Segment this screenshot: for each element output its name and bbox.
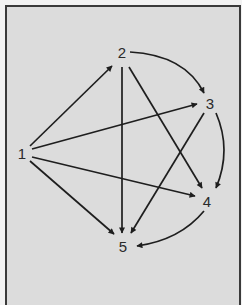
edge-1-3 <box>32 104 197 149</box>
node-5: 5 <box>119 239 127 254</box>
node-3: 3 <box>206 96 214 111</box>
edge-1-2 <box>30 66 112 146</box>
node-2: 2 <box>118 45 126 60</box>
edge-3-4 <box>216 113 224 188</box>
node-4: 4 <box>203 194 211 209</box>
edge-2-4 <box>129 67 202 188</box>
edge-1-5 <box>30 161 114 234</box>
node-1: 1 <box>18 146 26 161</box>
edge-4-5 <box>137 211 204 246</box>
edge-1-4 <box>32 157 195 196</box>
